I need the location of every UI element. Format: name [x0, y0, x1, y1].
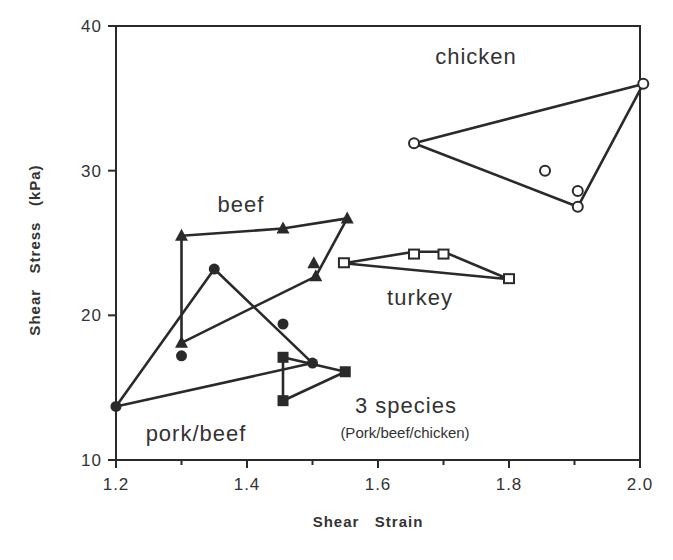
three-species-label: 3 species	[355, 393, 457, 418]
chicken-point	[573, 186, 583, 196]
beef-point	[309, 269, 322, 281]
chicken-point	[573, 202, 583, 212]
x-axis-title: Shear Strain	[313, 513, 424, 530]
turkey-label: turkey	[387, 285, 453, 310]
turkey-polygon	[344, 252, 509, 280]
y-tick-label: 40	[81, 17, 102, 36]
x-tick-label: 1.2	[103, 475, 130, 494]
three-species-sublabel: (Pork/beef/chicken)	[340, 424, 469, 441]
chicken-point	[409, 138, 419, 148]
x-tick-label: 2.0	[627, 475, 654, 494]
x-axis: 1.21.41.61.82.0	[103, 460, 654, 494]
chicken-point	[540, 166, 550, 176]
series-polygons	[116, 84, 643, 407]
shear-scatter-chart: 1.21.41.61.82.0 10203040 chicken beef tu…	[0, 0, 673, 560]
y-tick-label: 20	[81, 306, 102, 325]
3-point	[278, 352, 289, 363]
y-tick-label: 10	[81, 451, 102, 470]
x-tick-label: 1.8	[496, 475, 523, 494]
x-tick-label: 1.6	[365, 475, 392, 494]
y-axis-title: Shear Stress (kPa)	[26, 164, 43, 335]
x-tick-label: 1.4	[234, 475, 261, 494]
y-axis: 10203040	[81, 17, 116, 470]
turkey-point	[409, 250, 419, 259]
chicken-point	[638, 79, 648, 89]
turkey-point	[339, 258, 349, 267]
pork-beef-point	[111, 401, 122, 412]
chicken-polygon	[414, 84, 643, 207]
beef-point	[307, 256, 320, 268]
pork-beef-point	[209, 264, 220, 275]
series-markers	[111, 79, 649, 412]
pork-beef-point	[176, 350, 187, 361]
turkey-point	[439, 250, 449, 259]
chicken-label: chicken	[435, 44, 517, 69]
y-tick-label: 30	[81, 162, 102, 181]
pork-beef-label: pork/beef	[146, 421, 247, 446]
beef-point	[341, 211, 354, 223]
pork-beef-point	[278, 319, 289, 330]
turkey-point	[504, 274, 514, 283]
3-point	[340, 366, 351, 377]
beef-label: beef	[218, 192, 265, 217]
3-point	[278, 395, 289, 406]
pork-beef-point	[307, 358, 318, 369]
